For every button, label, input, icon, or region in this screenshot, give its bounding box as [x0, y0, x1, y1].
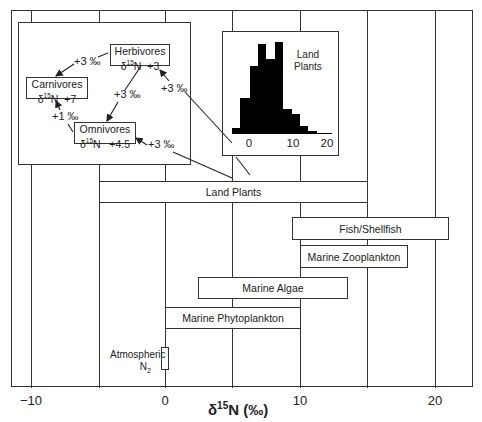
- histogram-bars: [232, 42, 332, 134]
- diagram-overlay: [0, 0, 482, 422]
